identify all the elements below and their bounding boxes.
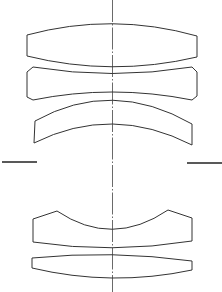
lens-element-4 <box>33 210 192 248</box>
lens-element-3 <box>34 100 192 145</box>
lens-element-1 <box>27 24 197 67</box>
lens-element-2 <box>27 67 197 100</box>
lens-element-5 <box>32 255 192 278</box>
lens-diagram <box>0 0 222 292</box>
